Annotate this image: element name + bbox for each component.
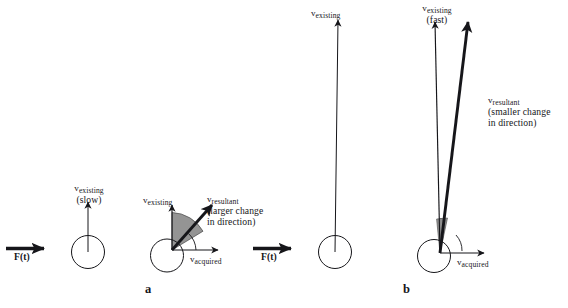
v-existing-label-a-right: vexisting [143,195,172,207]
speed-note: (slow) [76,194,101,205]
v-resultant-label-b: vresultant (smaller change in direction) [488,95,551,128]
body-circle-b-right [418,240,451,273]
panel-letter-a: a [145,282,151,296]
force-label-b: F(t) [261,252,277,263]
change-note-line1: (smaller change [488,106,551,117]
change-note-line1: (larger change [207,205,263,216]
v-acquired-label-a: vacquired [190,254,222,266]
reference-arc-b [456,235,462,251]
v-subscript: acquired [195,257,222,266]
v-subscript: existing [148,198,173,207]
v-existing-label-b-left: vexisting [311,8,340,20]
v-existing-label-a-left: vexisting (slow) [58,183,120,206]
panel-b-right-figure [418,0,485,273]
change-note-line2: in direction) [488,117,536,128]
panel-letter-b: b [403,282,410,296]
v-acquired-label-b: vacquired [457,257,489,269]
v-subscript: existing [316,11,341,20]
v-subscript: acquired [462,260,489,269]
panel-b-left-figure [253,20,352,269]
force-label-a: F(t) [14,252,30,263]
change-note-line2: in direction) [207,216,255,227]
speed-note: (fast) [427,14,448,25]
v-existing-label-b-right: vexisting (fast) [406,3,468,26]
physics-vector-diagram: F(t) vexisting (slow) vexisting vresulta… [0,0,568,308]
v-resultant-label-a: vresultant (larger change in direction) [207,194,263,227]
v-existing-arrow-b-left [335,20,338,252]
